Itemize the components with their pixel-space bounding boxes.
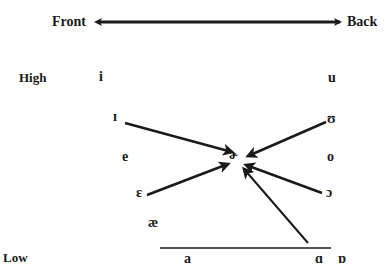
vowel-i: i [99,70,103,84]
vowel-ae: æ [148,216,158,230]
vowel-open-mid-back: ɔ [326,186,332,200]
high-label: High [19,71,46,85]
vowel-e: e [122,150,128,164]
diagram-lines [0,0,390,279]
vowel-u: u [328,71,336,85]
front-label: Front [52,15,86,29]
arrow-open-mid-back-to-center [246,165,322,193]
vowel-open-back-rounded: ɒ [338,252,346,266]
back-label: Back [347,15,377,29]
low-label: Low [3,251,28,265]
vowel-center-rhotic: ɚ [229,148,238,162]
vowel-o: o [327,150,334,164]
vowel-near-close-back: ʊ [327,112,336,126]
vowel-open-mid-front: ɛ [136,186,142,200]
vowel-open-back-unrounded: ɑ [315,252,323,266]
arrow-near-close-front-to-center [125,123,232,152]
arrow-open-mid-front-to-center [147,164,228,195]
vowel-near-close-front: ɪ [113,110,117,124]
vowel-a: a [184,252,191,266]
arrow-open-back-to-center [244,169,308,243]
arrow-near-close-back-to-center [248,122,326,156]
